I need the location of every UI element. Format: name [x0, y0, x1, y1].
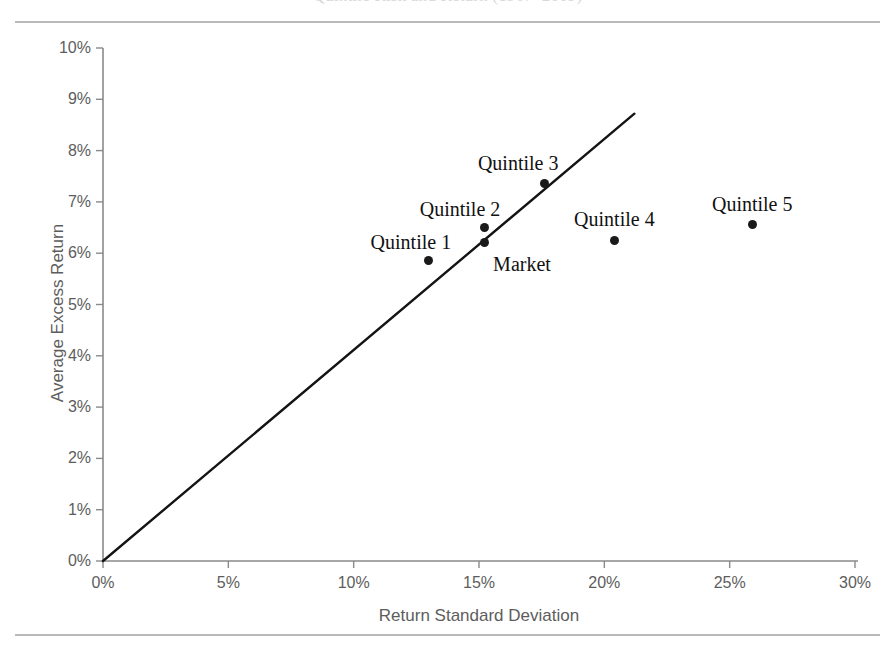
x-tick-label: 10%: [324, 574, 384, 592]
data-point-label: Quintile 1: [371, 231, 452, 254]
data-point-label: Quintile 5: [712, 193, 793, 216]
axis-ticks: [96, 48, 855, 568]
axes: [103, 48, 858, 561]
data-point-label: Quintile 4: [574, 208, 655, 231]
x-tick-label: 30%: [825, 574, 885, 592]
x-tick-label: 15%: [449, 574, 509, 592]
data-point-label: Market: [493, 253, 551, 276]
data-point[interactable]: [480, 223, 489, 232]
y-tick-label: 0%: [45, 552, 91, 570]
data-point[interactable]: [610, 236, 619, 245]
data-point-label: Quintile 2: [420, 198, 501, 221]
x-tick-label: 5%: [198, 574, 258, 592]
figure-container: Quintile Risk and Return (1967–2009) 0%1…: [0, 0, 893, 651]
y-axis-title: Average Excess Return: [48, 163, 68, 463]
x-tick-label: 0%: [73, 574, 133, 592]
figure-bottom-rule: [15, 634, 880, 636]
y-tick-label: 10%: [45, 39, 91, 57]
y-tick-label: 9%: [45, 90, 91, 108]
reference-line: [103, 114, 634, 561]
plot-svg: [0, 0, 893, 651]
y-tick-label: 8%: [45, 142, 91, 160]
x-tick-label: 20%: [574, 574, 634, 592]
data-point[interactable]: [480, 238, 489, 247]
scatter-plot: [0, 0, 893, 651]
capital-market-line: [103, 114, 634, 561]
x-axis-title: Return Standard Deviation: [103, 606, 855, 626]
y-tick-label: 1%: [45, 501, 91, 519]
x-tick-label: 25%: [700, 574, 760, 592]
data-point-label: Quintile 3: [478, 152, 559, 175]
